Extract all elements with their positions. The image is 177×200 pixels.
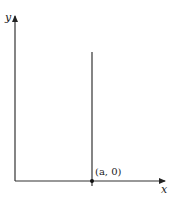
point-label: (a, 0)	[95, 167, 121, 177]
y-axis-label: y	[5, 12, 11, 23]
x-axis-label: x	[161, 184, 167, 195]
point-a-0	[90, 179, 94, 183]
diagram-canvas	[0, 0, 177, 200]
